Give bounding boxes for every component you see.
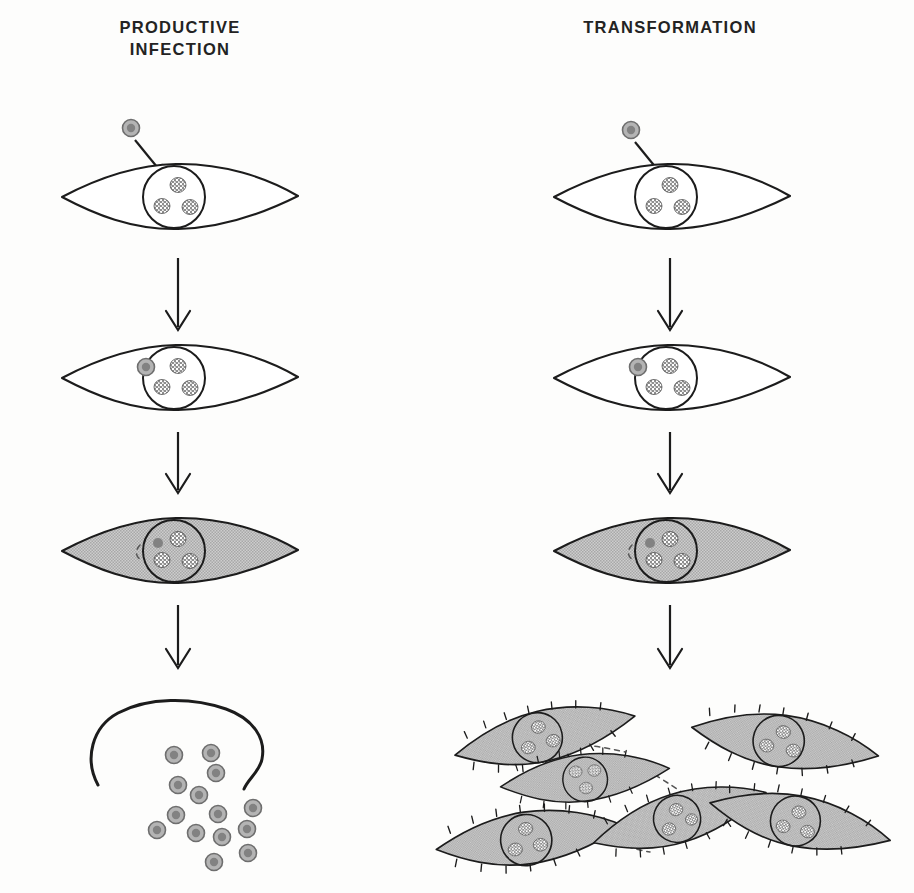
stage-arrow-3 — [166, 605, 190, 668]
virion-at-nucleus — [630, 359, 647, 376]
stage-productive-4 — [91, 700, 263, 870]
stage-arrow-3 — [658, 605, 682, 668]
host-cell-shaded — [554, 518, 790, 583]
stage-productive-2 — [62, 345, 298, 410]
released-virions — [149, 745, 262, 871]
stage-arrow-1 — [658, 258, 682, 330]
diagram-svg — [0, 0, 914, 893]
stage-transformation-1 — [554, 122, 790, 230]
stage-transformation-2 — [554, 345, 790, 410]
nucleus — [143, 166, 205, 228]
stage-arrow-1 — [166, 258, 190, 330]
column-productive-infection — [62, 120, 298, 871]
stage-productive-3 — [62, 518, 298, 583]
stage-arrow-2 — [658, 432, 682, 493]
lysed-cell-outline — [91, 700, 263, 789]
stage-transformation-3 — [554, 518, 790, 583]
host-cell-shaded — [62, 518, 298, 583]
transformed-cell — [703, 771, 897, 873]
transformed-cell — [687, 694, 884, 789]
free-virion — [623, 122, 640, 139]
virion-at-nucleus — [138, 359, 155, 376]
nucleus — [635, 166, 697, 228]
stage-transformation-4 — [432, 685, 897, 882]
stage-productive-1 — [62, 120, 298, 230]
figure-canvas: PRODUCTIVE INFECTION TRANSFORMATION — [0, 0, 914, 893]
stage-arrow-2 — [166, 432, 190, 493]
column-transformation — [432, 122, 897, 883]
free-virion — [123, 120, 140, 137]
nucleus — [143, 347, 205, 409]
nucleus — [635, 347, 697, 409]
